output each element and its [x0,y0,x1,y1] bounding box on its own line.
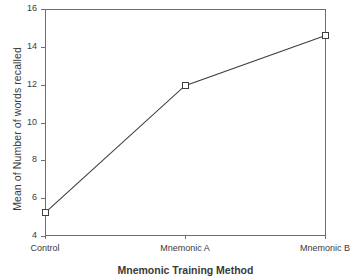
x-axis-title: Mnemonic Training Method [45,263,326,277]
marker-center [45,211,47,213]
marker-center [184,85,186,87]
x-tick-label: Mnemonic B [278,242,355,255]
y-tick-label: 16 [27,2,37,15]
y-tick-label: 8 [32,153,37,166]
plot-area: 46810121416 ControlMnemonic AMnemonic B [45,9,326,236]
data-line [45,9,326,236]
y-axis-title: Mean of Number of words recalled [10,34,24,224]
y-tick-label: 14 [27,40,37,53]
data-point-marker [42,209,49,216]
x-tick-label: Mnemonic A [140,242,230,255]
data-point-marker [322,32,329,39]
data-point-marker [182,82,189,89]
y-tick-label: 6 [32,191,37,204]
marker-center [325,34,327,36]
x-tick-label: Control [15,242,75,255]
y-tick-label: 12 [27,78,37,91]
y-tick-label: 4 [32,229,37,242]
y-tick-label: 10 [27,116,37,129]
